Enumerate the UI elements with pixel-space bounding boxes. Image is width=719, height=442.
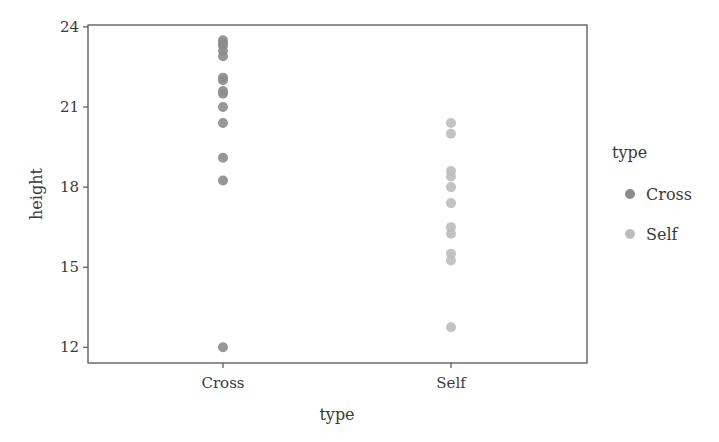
y-axis-title: height (27, 168, 46, 220)
x-axis: CrossSelf (201, 363, 467, 392)
y-tick-label: 18 (60, 178, 79, 196)
legend-label-self: Self (646, 225, 679, 244)
legend-key-self (625, 229, 635, 239)
plot-panel (88, 25, 587, 363)
legend-key-cross (625, 189, 635, 199)
data-point-self (446, 256, 456, 266)
legend-title: type (612, 143, 647, 162)
data-point-self (446, 229, 456, 239)
data-point-cross (218, 102, 228, 112)
x-axis-title: type (319, 405, 354, 424)
data-point-cross (218, 75, 228, 85)
scatter-chart: 1215182124 CrossSelf height type type Cr… (0, 0, 719, 442)
data-point-cross (218, 175, 228, 185)
data-point-self (446, 198, 456, 208)
data-point-self (446, 171, 456, 181)
y-tick-label: 21 (60, 98, 79, 116)
y-tick-label: 24 (60, 18, 79, 36)
data-point-cross (218, 89, 228, 99)
y-tick-label: 15 (60, 258, 79, 276)
data-point-self (446, 118, 456, 128)
legend-label-cross: Cross (646, 185, 692, 204)
y-axis: 1215182124 (60, 18, 88, 356)
data-point-cross (218, 342, 228, 352)
legend: type CrossSelf (612, 143, 692, 244)
x-tick-label: Cross (201, 374, 244, 392)
data-point-self (446, 129, 456, 139)
data-point-self (446, 322, 456, 332)
data-point-cross (218, 118, 228, 128)
x-tick-label: Self (436, 374, 467, 392)
data-point-cross (218, 153, 228, 163)
data-point-cross (218, 51, 228, 61)
plot-border (88, 25, 587, 363)
data-point-self (446, 182, 456, 192)
y-tick-label: 12 (60, 338, 79, 356)
